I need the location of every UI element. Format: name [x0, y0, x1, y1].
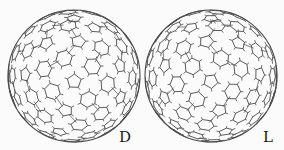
sphere-l-graphic	[0, 0, 284, 150]
sphere-l-network	[0, 0, 284, 150]
label-l: L	[263, 130, 273, 145]
enantiomer-sphere-figure: D L	[0, 0, 284, 150]
